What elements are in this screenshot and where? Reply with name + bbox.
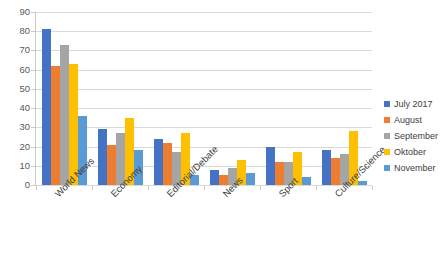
x-axis-tick xyxy=(148,186,149,190)
bar-chart: 9080706050403020100 World NewsEconomyEdi… xyxy=(0,0,447,260)
bar[interactable] xyxy=(275,162,284,185)
bar[interactable] xyxy=(107,145,116,185)
bar[interactable] xyxy=(331,158,340,185)
x-axis-tick xyxy=(92,186,93,190)
y-axis-tick xyxy=(31,12,35,13)
bar[interactable] xyxy=(42,29,51,185)
legend-item[interactable]: August xyxy=(384,112,447,128)
y-axis-tick-label: 60 xyxy=(4,65,30,75)
chart-legend: July 2017AugustSeptemberOktoberNovember xyxy=(384,96,447,176)
y-axis-tick xyxy=(31,166,35,167)
y-axis-tick-label: 20 xyxy=(4,142,30,152)
legend-label: July 2017 xyxy=(394,100,433,109)
legend-item[interactable]: November xyxy=(384,160,447,176)
bar[interactable] xyxy=(246,173,255,185)
x-axis-tick xyxy=(36,186,37,190)
legend-swatch-icon xyxy=(384,117,390,123)
x-axis-tick xyxy=(204,186,205,190)
y-axis-tick xyxy=(31,70,35,71)
legend-label: September xyxy=(394,132,438,141)
y-axis-tick-label: 10 xyxy=(4,161,30,171)
y-axis-tick xyxy=(31,89,35,90)
bar-group xyxy=(260,12,316,185)
y-axis-tick xyxy=(31,185,35,186)
y-axis-tick-label: 70 xyxy=(4,46,30,56)
y-axis-tick xyxy=(31,127,35,128)
x-axis-tick xyxy=(316,186,317,190)
bar[interactable] xyxy=(51,66,60,185)
y-axis-tick-label: 30 xyxy=(4,123,30,133)
bar[interactable] xyxy=(210,170,219,185)
y-axis-tick-label: 80 xyxy=(4,26,30,36)
y-axis-tick xyxy=(31,147,35,148)
legend-item[interactable]: July 2017 xyxy=(384,96,447,112)
legend-label: Oktober xyxy=(394,148,426,157)
bar[interactable] xyxy=(98,129,107,185)
legend-swatch-icon xyxy=(384,165,390,171)
y-axis-tick xyxy=(31,108,35,109)
x-axis-tick xyxy=(372,186,373,190)
legend-swatch-icon xyxy=(384,149,390,155)
y-axis-tick-label: 90 xyxy=(4,7,30,17)
bar[interactable] xyxy=(154,139,163,185)
x-axis-tick xyxy=(260,186,261,190)
legend-label: November xyxy=(394,164,436,173)
legend-swatch-icon xyxy=(384,133,390,139)
y-axis-labels: 9080706050403020100 xyxy=(0,0,30,260)
bar[interactable] xyxy=(322,150,331,185)
legend-swatch-icon xyxy=(384,101,390,107)
bar[interactable] xyxy=(60,45,69,185)
bar[interactable] xyxy=(163,143,172,185)
bar-group xyxy=(204,12,260,185)
bar-group xyxy=(92,12,148,185)
bar[interactable] xyxy=(266,147,275,185)
y-axis-tick-label: 50 xyxy=(4,84,30,94)
y-axis-tick xyxy=(31,31,35,32)
bar[interactable] xyxy=(302,177,311,185)
legend-item[interactable]: September xyxy=(384,128,447,144)
y-axis-tick-label: 0 xyxy=(4,180,30,190)
y-axis-tick-label: 40 xyxy=(4,103,30,113)
legend-item[interactable]: Oktober xyxy=(384,144,447,160)
bar[interactable] xyxy=(358,181,367,185)
legend-label: August xyxy=(394,116,422,125)
y-axis-tick xyxy=(31,50,35,51)
